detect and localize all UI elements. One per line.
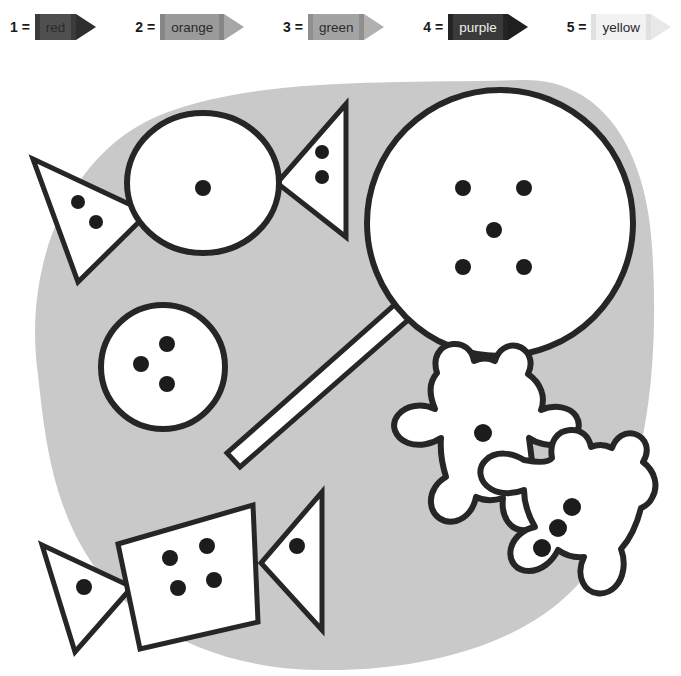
- crayon-icon-orange: orange: [160, 14, 244, 40]
- legend-number-5: 5 =: [567, 19, 587, 35]
- crayon-icon-yellow: yellow: [591, 14, 671, 40]
- dot: [563, 498, 581, 516]
- dot: [195, 180, 211, 196]
- dot: [133, 356, 149, 372]
- crayon-icon-purple: purple: [448, 14, 528, 40]
- dot: [549, 519, 567, 537]
- legend-number-3: 3 =: [283, 19, 303, 35]
- legend-label-2: orange: [171, 20, 213, 35]
- color-key-legend: 1 = red 2 = orange 3 =: [0, 0, 681, 54]
- dot: [455, 259, 471, 275]
- dot: [199, 538, 215, 554]
- legend-number-4: 4 =: [423, 19, 443, 35]
- dot: [315, 145, 329, 159]
- dot: [486, 222, 502, 238]
- legend-entry-3[interactable]: 3 = green: [283, 14, 384, 40]
- dot: [516, 180, 532, 196]
- dot: [533, 539, 551, 557]
- legend-label-3: green: [319, 20, 354, 35]
- dot: [159, 336, 175, 352]
- dot: [206, 572, 222, 588]
- dot: [76, 579, 92, 595]
- dot: [474, 424, 492, 442]
- legend-label-5: yellow: [602, 20, 640, 35]
- legend-number-1: 1 =: [10, 19, 30, 35]
- dot: [71, 195, 85, 209]
- shape-small-button-candy[interactable]: [101, 305, 225, 429]
- coloring-picture: [0, 50, 681, 676]
- dot: [315, 170, 329, 184]
- legend-entry-2[interactable]: 2 = orange: [135, 14, 244, 40]
- dot: [162, 550, 178, 566]
- legend-label-1: red: [46, 20, 66, 35]
- legend-label-4: purple: [459, 20, 497, 35]
- legend-entry-4[interactable]: 4 = purple: [423, 14, 527, 40]
- dot: [455, 180, 471, 196]
- dot: [159, 376, 175, 392]
- dot: [289, 538, 305, 554]
- legend-number-2: 2 =: [135, 19, 155, 35]
- dot: [170, 580, 186, 596]
- legend-entry-1[interactable]: 1 = red: [10, 14, 96, 40]
- dot: [516, 259, 532, 275]
- dot: [89, 215, 103, 229]
- legend-entry-5[interactable]: 5 = yellow: [567, 14, 671, 40]
- worksheet-page: 1 = red 2 = orange 3 =: [0, 0, 681, 676]
- lollipop-head[interactable]: [367, 90, 633, 356]
- crayon-icon-red: red: [35, 14, 97, 40]
- small-circle[interactable]: [101, 305, 225, 429]
- crayon-icon-green: green: [308, 14, 385, 40]
